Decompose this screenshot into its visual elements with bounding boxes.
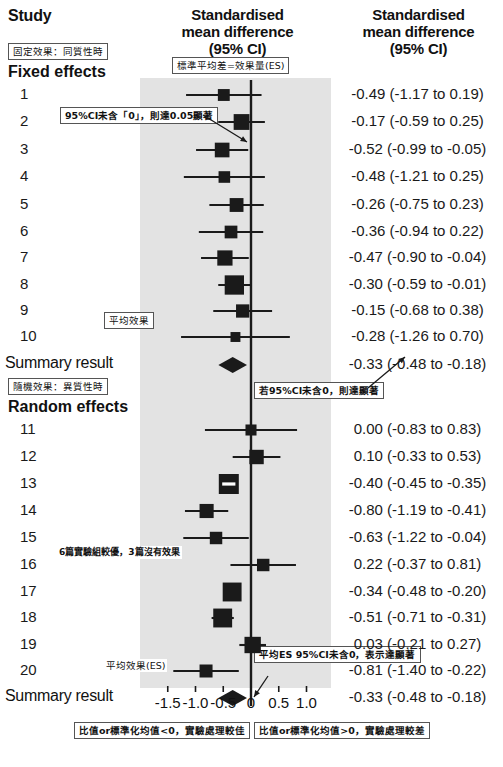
row-value-3: -0.52 (-0.99 to -0.05) bbox=[336, 140, 499, 157]
row-label-20: 20 bbox=[20, 661, 37, 678]
row-label-8: 8 bbox=[20, 275, 28, 292]
annotation-es-definition: 標準平均差=效果量(ES) bbox=[172, 57, 289, 74]
row-label-2: 2 bbox=[20, 112, 28, 129]
row-value-4: -0.48 (-1.21 to 0.25) bbox=[336, 167, 499, 184]
row-label-19: 19 bbox=[20, 635, 37, 652]
row-value-6: -0.36 (-0.94 to 0.22) bbox=[336, 222, 499, 239]
row-label-11: 11 bbox=[20, 420, 36, 437]
row-value-2: -0.17 (-0.59 to 0.25) bbox=[336, 112, 499, 129]
row-value-18: -0.51 (-0.71 to -0.31) bbox=[336, 608, 499, 625]
column-header-values-line3: (95% CI) bbox=[336, 40, 501, 57]
row-value-10: -0.28 (-1.26 to 0.70) bbox=[336, 327, 499, 344]
row-value-9: -0.15 (-0.68 to 0.38) bbox=[336, 301, 499, 318]
summary-value-random: -0.33 (-0.48 to -0.18) bbox=[336, 688, 499, 705]
row-label-5: 5 bbox=[20, 195, 28, 212]
row-label-10: 10 bbox=[20, 327, 37, 344]
row-value-15: -0.63 (-1.22 to -0.04) bbox=[336, 528, 499, 545]
summary-label-fixed: Summary result bbox=[5, 354, 113, 372]
annotation-row17-note: 6篇實驗組較優，3篇沒有效果 bbox=[57, 546, 182, 559]
note-random-effects: 隨機效果：異質性時 bbox=[8, 378, 108, 395]
section-title-random-effects: Random effects bbox=[8, 398, 128, 416]
row-label-16: 16 bbox=[20, 555, 37, 572]
row-label-6: 6 bbox=[20, 222, 28, 239]
row-label-15: 15 bbox=[20, 528, 37, 545]
annotation-mean-effect: 平均效果 bbox=[104, 312, 154, 329]
axis-tick-label-5: 1.0 bbox=[287, 694, 327, 711]
row-label-14: 14 bbox=[20, 501, 37, 518]
footer-note-right: 比值or標準化均值>0，實驗處理較差 bbox=[254, 722, 430, 739]
summary-value-fixed: -0.33 (-0.48 to -0.18) bbox=[336, 355, 499, 372]
summary-label-random: Summary result bbox=[5, 687, 113, 705]
column-header-values-line2: mean difference bbox=[336, 23, 501, 40]
row-value-16: 0.22 (-0.37 to 0.81) bbox=[336, 555, 499, 572]
row-label-17: 17 bbox=[20, 582, 37, 599]
row-value-11: 0.00 (-0.83 to 0.83) bbox=[336, 420, 499, 437]
column-header-plot: Standardised mean difference (95% CI) bbox=[150, 6, 325, 57]
column-header-plot-line2: mean difference bbox=[150, 23, 325, 40]
row-value-8: -0.30 (-0.59 to -0.01) bbox=[336, 275, 499, 292]
column-header-values: Standardised mean difference (95% CI) bbox=[336, 6, 501, 57]
row-label-13: 13 bbox=[20, 474, 37, 491]
annotation-ci-zero-significant: 若95%CI未含0，則達顯著 bbox=[254, 382, 384, 399]
row-value-5: -0.26 (-0.75 to 0.23) bbox=[336, 195, 499, 212]
row-value-7: -0.47 (-0.90 to -0.04) bbox=[336, 248, 499, 265]
column-header-plot-line3: (95% CI) bbox=[150, 40, 325, 57]
row-value-14: -0.80 (-1.19 to -0.41) bbox=[336, 501, 499, 518]
column-header-values-line1: Standardised bbox=[336, 6, 501, 23]
annotation-mean-effect-es: 平均效果(ES) bbox=[104, 659, 167, 672]
row-label-18: 18 bbox=[20, 608, 37, 625]
row-value-1: -0.49 (-1.17 to 0.19) bbox=[336, 85, 499, 102]
annotation-ci-not-contain-zero: 95%CI未含「0」，則達0.05顯著 bbox=[60, 107, 218, 124]
row-label-9: 9 bbox=[20, 301, 28, 318]
row-value-13: -0.40 (-0.45 to -0.35) bbox=[336, 474, 499, 491]
row-value-19: 0.03 (-0.21 to 0.27) bbox=[336, 635, 499, 652]
row-label-3: 3 bbox=[20, 140, 28, 157]
row-value-12: 0.10 (-0.33 to 0.53) bbox=[336, 447, 499, 464]
section-title-fixed-effects: Fixed effects bbox=[8, 63, 106, 81]
column-header-study: Study bbox=[8, 8, 51, 24]
row-label-1: 1 bbox=[20, 85, 28, 102]
row-label-7: 7 bbox=[20, 248, 28, 265]
note-fixed-effects: 固定效果：同質性時 bbox=[8, 43, 108, 60]
row-label-4: 4 bbox=[20, 167, 28, 184]
row-value-20: -0.81 (-1.40 to -0.22) bbox=[336, 661, 499, 678]
footer-note-left: 比值or標準化均值<0，實驗處理較佳 bbox=[74, 722, 250, 739]
forest-plot-figure: Study Standardised mean difference (95% … bbox=[0, 0, 503, 767]
column-header-plot-line1: Standardised bbox=[150, 6, 325, 23]
row-value-17: -0.34 (-0.48 to -0.20) bbox=[336, 582, 499, 599]
row-label-12: 12 bbox=[20, 447, 37, 464]
